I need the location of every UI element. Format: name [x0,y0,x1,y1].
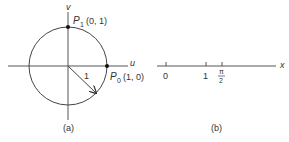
p1-subscript: 1 [80,21,84,28]
point-p0 [105,64,109,68]
tick-label-0: 0 [163,71,168,81]
figure: v u P 1 (0, 1) P 0 (1, 0) 1 (a) x 0 1 π … [0,0,289,142]
tick-label-pi-numerator: π [219,68,224,75]
axis-u-label: u [130,58,135,68]
tick-label-pi-denominator: 2 [219,77,223,84]
p1-name: P [73,15,80,26]
radius-label: 1 [84,71,89,81]
axis-v-label: v [66,2,71,12]
caption-a: (a) [63,123,74,133]
tick-label-1: 1 [203,71,208,81]
panel-b-number-line: x 0 1 π 2 (b) [157,60,285,133]
p0-subscript: 0 [117,77,121,84]
panel-a-unit-circle: v u P 1 (0, 1) P 0 (1, 0) 1 (a) [8,2,144,133]
axis-x-label: x [279,60,285,70]
p0-name: P [110,71,117,82]
point-p1 [66,25,70,29]
p1-coords: (0, 1) [86,16,107,26]
p0-coords: (1, 0) [123,72,144,82]
radius-arrow [68,66,96,93]
caption-b: (b) [211,123,222,133]
